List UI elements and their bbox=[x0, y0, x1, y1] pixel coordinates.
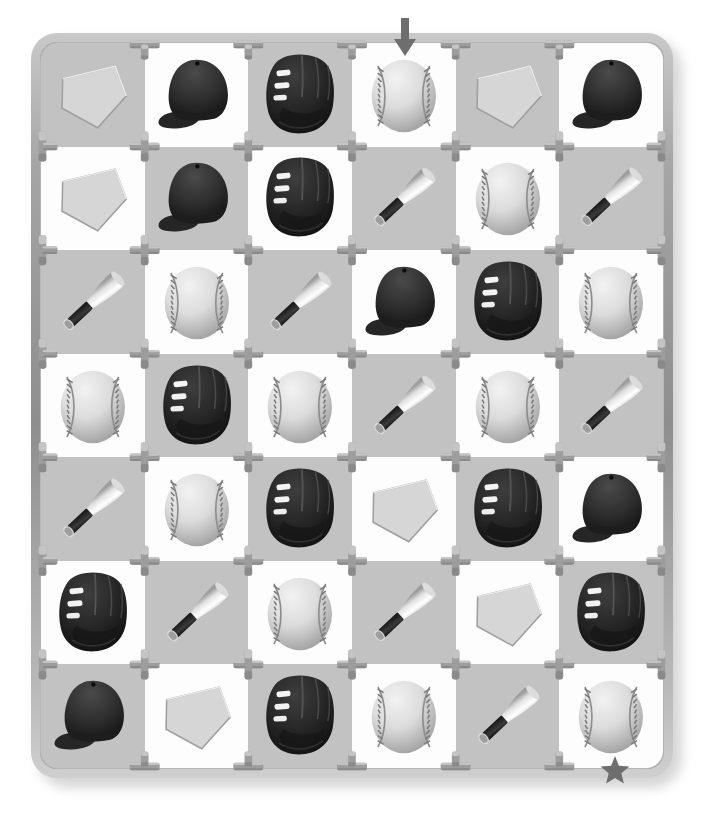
grid-cell-r2c1[interactable] bbox=[41, 147, 145, 251]
baseball-icon bbox=[559, 664, 663, 768]
grid-cell-r1c3[interactable] bbox=[248, 43, 352, 147]
baseball-icon bbox=[248, 354, 352, 458]
grid-cell-r4c4[interactable] bbox=[352, 354, 456, 458]
baseball-bat-icon bbox=[352, 354, 456, 458]
baseball-glove-icon bbox=[41, 561, 145, 665]
baseball-icon bbox=[248, 561, 352, 665]
grid-cell-r4c5[interactable] bbox=[456, 354, 560, 458]
baseball-glove-icon bbox=[248, 664, 352, 768]
entry-arrow-icon bbox=[392, 18, 418, 58]
grid-cell-r6c3[interactable] bbox=[248, 561, 352, 665]
baseball-glove-icon bbox=[456, 250, 560, 354]
puzzle-board: Baseball Equipment Maze Grid bbox=[0, 0, 705, 816]
baseball-bat-icon bbox=[145, 561, 249, 665]
baseball-cap-icon bbox=[145, 43, 249, 147]
grid-cell-r5c3[interactable] bbox=[248, 457, 352, 561]
grid-cell-r1c2[interactable] bbox=[145, 43, 249, 147]
equipment-grid[interactable] bbox=[41, 43, 663, 768]
baseball-glove-icon bbox=[248, 43, 352, 147]
grid-cell-r6c5[interactable] bbox=[456, 561, 560, 665]
home-plate-icon bbox=[456, 561, 560, 665]
grid-cell-r7c5[interactable] bbox=[456, 664, 560, 768]
grid-cell-r7c4[interactable] bbox=[352, 664, 456, 768]
home-plate-icon bbox=[352, 457, 456, 561]
grid-cell-r5c1[interactable] bbox=[41, 457, 145, 561]
grid-cell-r3c3[interactable] bbox=[248, 250, 352, 354]
baseball-glove-icon bbox=[559, 561, 663, 665]
baseball-cap-icon bbox=[41, 664, 145, 768]
grid-cell-r2c4[interactable] bbox=[352, 147, 456, 251]
baseball-cap-icon bbox=[559, 457, 663, 561]
baseball-icon bbox=[559, 250, 663, 354]
grid-cell-r4c1[interactable] bbox=[41, 354, 145, 458]
baseball-cap-icon bbox=[559, 43, 663, 147]
home-plate-icon bbox=[41, 43, 145, 147]
grid-cell-r3c4[interactable] bbox=[352, 250, 456, 354]
grid-cell-r3c5[interactable] bbox=[456, 250, 560, 354]
grid-cell-r4c6[interactable] bbox=[559, 354, 663, 458]
grid-cell-r6c2[interactable] bbox=[145, 561, 249, 665]
home-plate-icon bbox=[145, 664, 249, 768]
grid-cell-r3c2[interactable] bbox=[145, 250, 249, 354]
baseball-bat-icon bbox=[352, 561, 456, 665]
grid-cell-r4c2[interactable] bbox=[145, 354, 249, 458]
baseball-icon bbox=[41, 354, 145, 458]
baseball-icon bbox=[456, 147, 560, 251]
baseball-bat-icon bbox=[559, 147, 663, 251]
grid-cell-r5c6[interactable] bbox=[559, 457, 663, 561]
grid-cell-r2c5[interactable] bbox=[456, 147, 560, 251]
grid-cell-r1c6[interactable] bbox=[559, 43, 663, 147]
home-plate-icon bbox=[41, 147, 145, 251]
baseball-glove-icon bbox=[145, 354, 249, 458]
grid-cell-r2c2[interactable] bbox=[145, 147, 249, 251]
grid-cell-r6c6[interactable] bbox=[559, 561, 663, 665]
baseball-icon bbox=[352, 43, 456, 147]
grid-cell-r7c6[interactable] bbox=[559, 664, 663, 768]
grid-cell-r5c5[interactable] bbox=[456, 457, 560, 561]
baseball-icon bbox=[352, 664, 456, 768]
grid-cell-r7c3[interactable] bbox=[248, 664, 352, 768]
grid-cell-r1c4[interactable] bbox=[352, 43, 456, 147]
grid-cell-r6c4[interactable] bbox=[352, 561, 456, 665]
baseball-bat-icon bbox=[248, 250, 352, 354]
grid-cell-r5c2[interactable] bbox=[145, 457, 249, 561]
baseball-icon bbox=[456, 354, 560, 458]
grid-cell-r2c3[interactable] bbox=[248, 147, 352, 251]
grid-cell-r5c4[interactable] bbox=[352, 457, 456, 561]
baseball-glove-icon bbox=[248, 457, 352, 561]
baseball-bat-icon bbox=[41, 457, 145, 561]
baseball-icon bbox=[145, 457, 249, 561]
grid-cell-r3c1[interactable] bbox=[41, 250, 145, 354]
baseball-icon bbox=[145, 250, 249, 354]
grid-cell-r2c6[interactable] bbox=[559, 147, 663, 251]
baseball-glove-icon bbox=[456, 457, 560, 561]
grid-cell-r1c1[interactable] bbox=[41, 43, 145, 147]
grid-cell-r4c3[interactable] bbox=[248, 354, 352, 458]
home-plate-icon bbox=[456, 43, 560, 147]
grid-cell-r1c5[interactable] bbox=[456, 43, 560, 147]
grid-cell-r6c1[interactable] bbox=[41, 561, 145, 665]
baseball-glove-icon bbox=[248, 147, 352, 251]
baseball-bat-icon bbox=[559, 354, 663, 458]
baseball-cap-icon bbox=[145, 147, 249, 251]
exit-star-icon bbox=[600, 755, 630, 785]
baseball-bat-icon bbox=[352, 147, 456, 251]
grid-cell-r7c1[interactable] bbox=[41, 664, 145, 768]
baseball-cap-icon bbox=[352, 250, 456, 354]
grid-cell-r7c2[interactable] bbox=[145, 664, 249, 768]
grid-cell-r3c6[interactable] bbox=[559, 250, 663, 354]
baseball-bat-icon bbox=[41, 250, 145, 354]
baseball-bat-icon bbox=[456, 664, 560, 768]
